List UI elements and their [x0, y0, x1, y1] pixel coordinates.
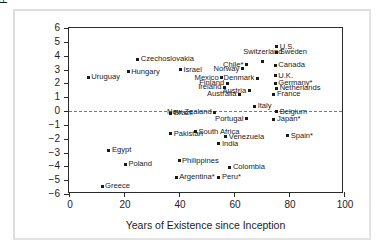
y-axis-tick-label: −6 [30, 188, 60, 199]
data-point-marker [275, 45, 278, 48]
y-axis-tick: 3 [64, 70, 69, 71]
x-axis-tick: 40 [179, 192, 180, 197]
y-axis-tick-label: 3 [30, 64, 60, 75]
data-point-marker [226, 82, 229, 85]
data-point-label: Peru* [222, 173, 241, 181]
y-axis-tick-label: −2 [30, 133, 60, 144]
data-point-marker [272, 93, 275, 96]
y-axis-title: Percent per Annum [0, 0, 9, 36]
data-point-marker [194, 130, 197, 133]
data-point-label: Greece [105, 182, 130, 190]
data-point-marker [107, 149, 110, 152]
data-point-label: Uruguay [91, 73, 120, 81]
x-axis-tick-label: 40 [165, 199, 195, 210]
data-point-marker [245, 63, 248, 66]
x-axis-tick-label: 100 [330, 199, 360, 210]
data-point-marker [169, 132, 172, 135]
y-axis-tick: −3 [64, 153, 69, 154]
y-axis-tick-label: 6 [30, 22, 60, 33]
data-point-marker [245, 117, 248, 120]
y-axis-tick: −5 [64, 180, 69, 181]
plot-area: 6543210−1−2−3−4−5−6 020406080100 Uruguay… [68, 27, 343, 193]
x-axis-tick: 0 [69, 192, 70, 197]
data-point-marker [124, 163, 127, 166]
x-axis-tick-label: 0 [55, 199, 85, 210]
x-axis-tick: 20 [124, 192, 125, 197]
data-point-marker [228, 166, 231, 169]
data-point-marker [101, 185, 104, 188]
data-point-label: Italy [258, 102, 272, 110]
data-point-marker [272, 118, 275, 121]
data-point-marker [217, 142, 220, 145]
data-point-label: Japan* [277, 115, 301, 123]
data-point-label: Spain* [291, 131, 313, 139]
data-point-marker [256, 77, 259, 80]
data-point-label: France [277, 90, 301, 98]
data-point-marker [248, 89, 251, 92]
y-axis-tick: −1 [64, 125, 69, 126]
y-axis-tick: 5 [64, 42, 69, 43]
data-point-marker [261, 60, 264, 63]
data-point-marker [274, 64, 277, 67]
chart-figure: Percent per Annum 6543210−1−2−3−4−5−6 02… [0, 0, 382, 247]
y-axis-tick: 6 [64, 28, 69, 29]
data-point-marker [136, 58, 139, 61]
y-axis-tick: −2 [64, 139, 69, 140]
x-axis-tick-label: 80 [275, 199, 305, 210]
data-point-label: Czechoslovakia [141, 55, 194, 63]
data-point-marker [286, 134, 289, 137]
data-point-label: Argentina* [179, 173, 214, 181]
data-point-label: Philippines [182, 156, 219, 164]
y-axis-tick: 2 [64, 83, 69, 84]
x-axis-tick-label: 60 [220, 199, 250, 210]
data-point-label: Egypt [112, 146, 131, 154]
data-point-marker [169, 112, 172, 115]
y-axis-tick-label: 1 [30, 91, 60, 102]
x-axis-tick: 80 [289, 192, 290, 197]
data-point-marker [275, 110, 278, 113]
x-axis-tick: 60 [234, 192, 235, 197]
y-axis-tick-label: −4 [30, 160, 60, 171]
data-point-label: India [222, 139, 238, 147]
y-axis-tick: −4 [64, 166, 69, 167]
data-point-marker [175, 176, 178, 179]
x-axis-title: Years of Existence since Inception [68, 219, 343, 231]
y-axis-tick-label: 0 [30, 105, 60, 116]
data-point-label: Hungary [131, 67, 160, 75]
y-axis-tick-label: −1 [30, 119, 60, 130]
data-point-marker [241, 67, 244, 70]
data-point-label: Brazil [174, 109, 193, 117]
data-point-marker [217, 176, 220, 179]
data-point-marker [178, 159, 181, 162]
data-point-label: Poland [128, 160, 152, 168]
x-axis-tick-label: 20 [110, 199, 140, 210]
y-axis-tick: 4 [64, 56, 69, 57]
data-point-marker [274, 82, 277, 85]
y-axis-tick: 0 [64, 111, 69, 112]
data-point-marker [275, 51, 278, 54]
y-axis-tick-label: 4 [30, 50, 60, 61]
x-axis-tick: 100 [344, 192, 345, 197]
data-point-marker [87, 76, 90, 79]
data-point-marker [238, 93, 241, 96]
data-point-marker [179, 68, 182, 71]
y-axis-tick-label: 5 [30, 36, 60, 47]
y-axis-tick-label: 2 [30, 77, 60, 88]
data-point-marker [274, 74, 277, 77]
data-point-marker [253, 105, 256, 108]
data-point-label: Sweden [280, 48, 307, 56]
y-axis-tick-label: −5 [30, 174, 60, 185]
data-point-label: Canada [278, 61, 305, 69]
data-point-label: Colombia [233, 163, 265, 171]
y-axis-tick-label: −3 [30, 147, 60, 158]
y-axis-tick: 1 [64, 97, 69, 98]
data-point-marker [127, 70, 130, 73]
